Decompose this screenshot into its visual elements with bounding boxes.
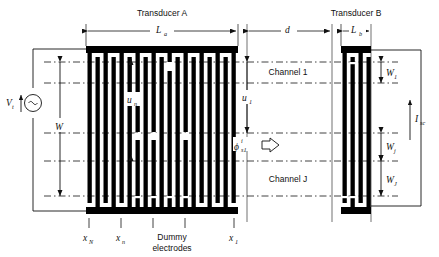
label-Lb-sub: b: [359, 30, 362, 37]
finger-bottom: [112, 57, 116, 207]
transducer-b-electrodes: [341, 46, 371, 214]
finger-top: [120, 53, 124, 203]
bus-bar-bottom: [341, 207, 371, 214]
finger-bottom: [176, 57, 180, 207]
finger-bottom: [96, 57, 100, 207]
label-phi-group: ϕ i s1: [233, 137, 255, 153]
label-xn-sub: n: [122, 238, 125, 245]
label-xn-group: x n: [115, 233, 125, 245]
label-xn: x: [115, 233, 121, 243]
dummy-electrodes-label-line1: Dummy: [157, 232, 187, 242]
label-Isc: I: [414, 114, 419, 124]
finger-bottom: [351, 57, 355, 207]
label-u1-sub: 1: [249, 98, 252, 105]
label-W1-sub: 1: [394, 73, 397, 80]
dimension-Wj: W j: [381, 133, 396, 161]
label-xN: x: [82, 233, 88, 243]
dimension-u1: u 1: [240, 62, 255, 133]
label-d: d: [285, 25, 290, 35]
label-x1-group: x 1: [228, 233, 238, 245]
dimension-W: W: [53, 62, 67, 196]
label-xN-group: x N: [82, 233, 94, 245]
figure-canvas: Transducer A Transducer B L a d L b: [0, 0, 439, 257]
bus-bar-top: [341, 46, 371, 53]
transducer-a-electrodes: [86, 46, 238, 214]
finger-top: [359, 53, 363, 203]
label-Lb: L: [350, 25, 356, 35]
finger-top: [232, 53, 236, 203]
label-phi-sup: i: [241, 137, 243, 144]
finger-bottom: [208, 57, 212, 207]
dimension-WJ: W J: [381, 161, 397, 196]
label-Wj-sub: j: [393, 147, 396, 154]
finger-top: [168, 53, 172, 63]
bus-bar-top: [86, 46, 238, 53]
label-La: L: [155, 25, 161, 35]
finger-top: [104, 53, 108, 203]
dummy-electrodes-label-line2: electrodes: [152, 243, 191, 253]
label-Vt-group: V t: [6, 98, 14, 110]
label-x1-sub: 1: [235, 238, 238, 245]
bus-bar-bottom: [86, 207, 238, 214]
label-xN-sub: N: [88, 238, 94, 245]
label-W: W: [55, 122, 64, 132]
transducer-a-title: Transducer A: [137, 8, 188, 18]
wave-propagation-arrow: [262, 138, 279, 152]
label-WJ-sub: J: [394, 180, 397, 187]
label-Isc-sub: sc: [420, 119, 425, 126]
bottom-position-ticks: [89, 218, 234, 228]
finger-top: [88, 53, 92, 203]
saw-device-diagram: Transducer A Transducer B L a d L b: [0, 0, 439, 257]
finger-top: [200, 53, 204, 203]
finger-top: [152, 53, 156, 132]
label-x1: x: [228, 233, 234, 243]
finger-top: [184, 53, 188, 132]
label-La-sub: a: [164, 30, 167, 37]
label-un: u: [127, 95, 132, 105]
finger-bottom: [224, 57, 228, 207]
dummy-electrode: [168, 71, 172, 207]
label-Vt-sub: t: [12, 103, 14, 110]
label-u1: u: [242, 93, 247, 103]
channel-J-label: Channel J: [269, 174, 307, 184]
label-phi-sub: s1: [241, 146, 247, 153]
channel-1-label: Channel 1: [269, 67, 308, 77]
label-phi: ϕ: [234, 142, 239, 152]
finger-top: [343, 53, 347, 203]
finger-bottom: [144, 57, 148, 207]
finger-bottom: [367, 57, 371, 207]
label-Isc-group: I sc: [414, 114, 425, 126]
transducer-b-title: Transducer B: [331, 8, 382, 18]
finger-bottom: [160, 57, 164, 207]
finger-bottom: [192, 57, 196, 207]
finger-top: [216, 53, 220, 203]
dimension-d: d: [247, 24, 332, 222]
label-un-sub: n: [134, 100, 137, 107]
dimension-W1: W 1: [381, 62, 397, 83]
dimension-La: L a: [86, 24, 238, 46]
